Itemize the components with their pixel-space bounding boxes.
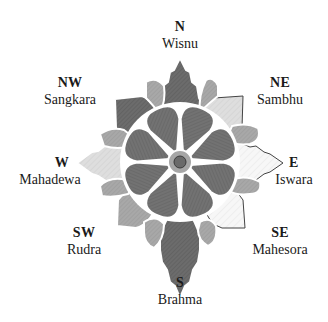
direction-abbr: SW — [52, 226, 116, 240]
label-south: S Brahma — [146, 276, 214, 307]
label-east: E Iswara — [262, 156, 326, 187]
label-southeast: SE Mahesora — [236, 226, 324, 257]
deity-name: Sambhu — [244, 93, 316, 107]
deity-name: Rudra — [52, 243, 116, 257]
label-west: W Mahadewa — [10, 156, 90, 187]
direction-abbr: NW — [32, 76, 108, 90]
deity-name: Brahma — [146, 293, 214, 307]
center-hub-inner — [174, 156, 186, 168]
direction-abbr: W — [10, 156, 90, 170]
direction-abbr: SE — [236, 226, 324, 240]
label-southwest: SW Rudra — [52, 226, 116, 257]
label-northeast: NE Sambhu — [244, 76, 316, 107]
label-north: N Wisnu — [148, 20, 212, 51]
direction-abbr: NE — [244, 76, 316, 90]
direction-abbr: E — [262, 156, 326, 170]
deity-name: Mahesora — [236, 243, 324, 257]
label-northwest: NW Sangkara — [32, 76, 108, 107]
deity-name: Wisnu — [148, 37, 212, 51]
deity-name: Sangkara — [32, 93, 108, 107]
deity-name: Mahadewa — [10, 173, 90, 187]
direction-abbr: N — [148, 20, 212, 34]
deity-name: Iswara — [262, 173, 326, 187]
direction-abbr: S — [146, 276, 214, 290]
central-lotus — [120, 102, 240, 222]
